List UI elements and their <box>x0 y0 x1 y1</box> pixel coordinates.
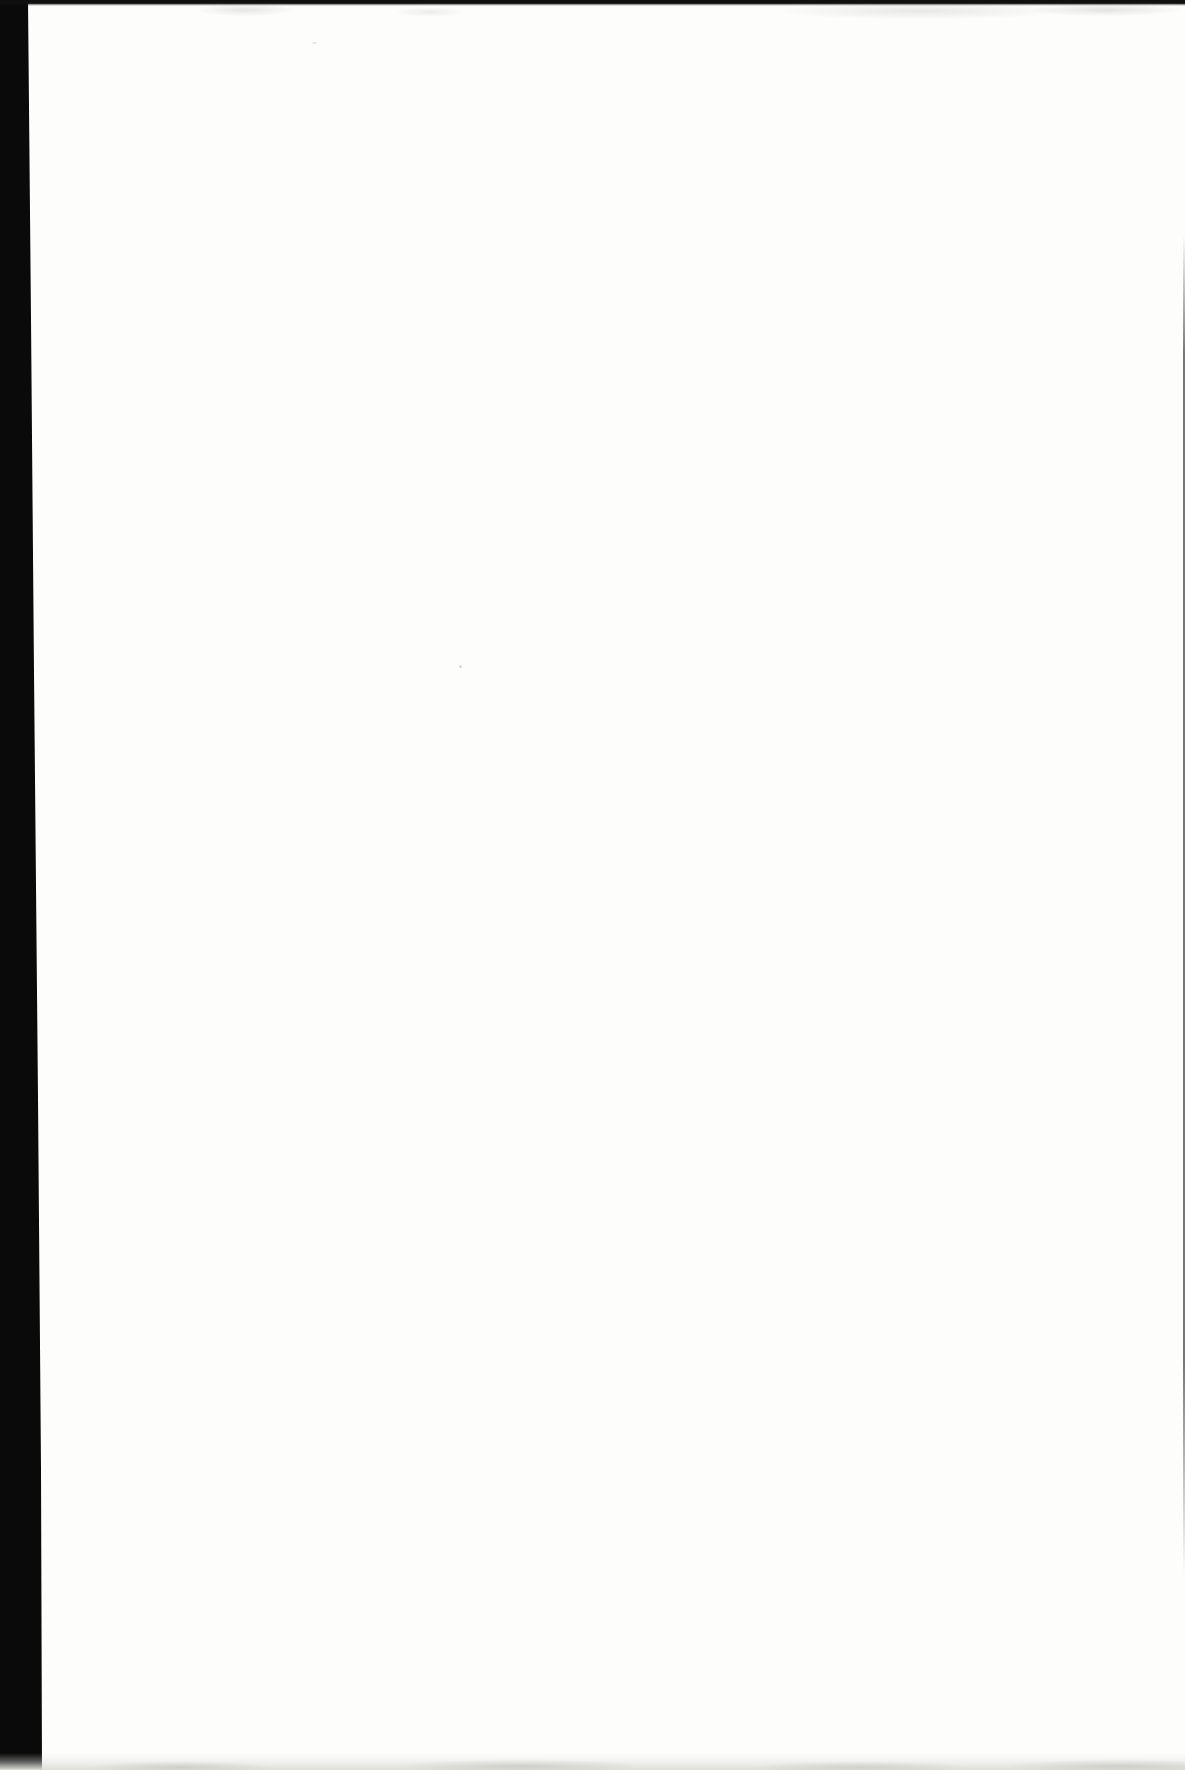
scanned-blank-page <box>0 0 1185 1770</box>
dust-speck <box>312 42 317 44</box>
binding-gutter-shadow <box>0 0 46 1770</box>
top-scan-smudge <box>0 3 1185 33</box>
bottom-scan-edge <box>0 1753 1185 1770</box>
dust-speck <box>459 665 462 668</box>
